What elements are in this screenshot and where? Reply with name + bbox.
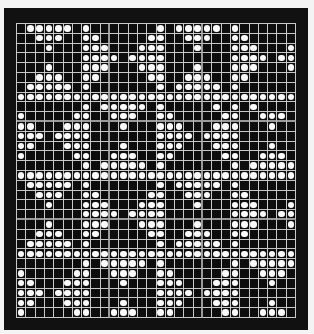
grid-cell-empty — [129, 63, 138, 73]
grid-cell-dot — [119, 161, 128, 171]
grid-cell-dot — [36, 249, 45, 259]
grid-cell-empty — [101, 289, 110, 299]
grid-cell-dot — [194, 44, 203, 54]
grid-cell-dot — [184, 230, 193, 240]
grid-cell-empty — [54, 142, 63, 152]
grid-cell-empty — [64, 151, 73, 161]
grid-cell-empty — [212, 308, 221, 318]
grid-cell-dot — [194, 83, 203, 93]
grid-cell-dot — [240, 34, 249, 44]
grid-cell-empty — [138, 298, 147, 308]
grid-cell-dot — [73, 298, 82, 308]
grid-cell-dot — [36, 34, 45, 44]
grid-cell-empty — [268, 102, 277, 112]
grid-cell-dot — [212, 93, 221, 103]
grid-cell-dot — [82, 191, 91, 201]
grid-cell-empty — [175, 308, 184, 318]
grid-cell-empty — [138, 24, 147, 34]
grid-cell-dot — [129, 161, 138, 171]
grid-cell-dot — [64, 93, 73, 103]
grid-cell-dot — [240, 220, 249, 230]
grid-cell-empty — [222, 181, 231, 191]
grid-cell-empty — [64, 161, 73, 171]
grid-cell-empty — [45, 53, 54, 63]
grid-cell-dot — [268, 279, 277, 289]
grid-cell-empty — [268, 53, 277, 63]
grid-cell-dot — [212, 142, 221, 152]
grid-cell-empty — [36, 44, 45, 54]
grid-cell-empty — [212, 220, 221, 230]
grid-cell-empty — [147, 269, 156, 279]
grid-cell-empty — [166, 53, 175, 63]
grid-cell-empty — [45, 132, 54, 142]
grid-cell-dot — [157, 112, 166, 122]
grid-cell-dot — [45, 220, 54, 230]
grid-cell-empty — [166, 230, 175, 240]
grid-cell-empty — [119, 210, 128, 220]
grid-cell-dot — [203, 93, 212, 103]
grid-cell-empty — [203, 269, 212, 279]
grid-cell-empty — [240, 122, 249, 132]
grid-cell-dot — [231, 161, 240, 171]
grid-cell-empty — [277, 200, 286, 210]
grid-cell-empty — [194, 308, 203, 318]
grid-cell-dot — [231, 308, 240, 318]
grid-cell-dot — [17, 249, 26, 259]
grid-cell-empty — [17, 191, 26, 201]
grid-cell-empty — [240, 240, 249, 250]
grid-cell-dot — [166, 142, 175, 152]
grid-cell-dot — [240, 191, 249, 201]
grid-cell-empty — [287, 269, 296, 279]
grid-cell-empty — [212, 230, 221, 240]
grid-cell-empty — [147, 112, 156, 122]
grid-cell-dot — [157, 230, 166, 240]
grid-cell-empty — [73, 259, 82, 269]
grid-cell-empty — [110, 83, 119, 93]
grid-cell-dot — [287, 200, 296, 210]
grid-cell-dot — [250, 220, 259, 230]
grid-cell-dot — [147, 34, 156, 44]
grid-cell-dot — [203, 181, 212, 191]
grid-cell-dot — [110, 53, 119, 63]
grid-cell-dot — [119, 112, 128, 122]
grid-cell-empty — [147, 161, 156, 171]
grid-cell-dot — [175, 181, 184, 191]
grid-cell-empty — [91, 24, 100, 34]
grid-cell-dot — [175, 93, 184, 103]
grid-cell-dot — [110, 259, 119, 269]
grid-cell-dot — [157, 83, 166, 93]
grid-cell-empty — [26, 230, 35, 240]
grid-cell-empty — [240, 83, 249, 93]
grid-cell-dot — [184, 83, 193, 93]
grid-cell-dot — [277, 151, 286, 161]
grid-cell-empty — [268, 220, 277, 230]
grid-cell-empty — [268, 34, 277, 44]
grid-cell-empty — [129, 142, 138, 152]
grid-cell-dot — [203, 249, 212, 259]
grid-cell-dot — [240, 63, 249, 73]
grid-cell-dot — [138, 102, 147, 112]
grid-cell-empty — [36, 200, 45, 210]
grid-cell-empty — [54, 210, 63, 220]
grid-cell-dot — [110, 102, 119, 112]
grid-cell-empty — [138, 73, 147, 83]
grid-cell-empty — [36, 161, 45, 171]
grid-cell-dot — [138, 220, 147, 230]
grid-cell-empty — [287, 122, 296, 132]
grid-cell-dot — [54, 191, 63, 201]
grid-cell-dot — [101, 249, 110, 259]
grid-cell-empty — [110, 200, 119, 210]
grid-cell-dot — [147, 220, 156, 230]
grid-cell-empty — [268, 63, 277, 73]
grid-cell-dot — [157, 44, 166, 54]
grid-cell-dot — [129, 259, 138, 269]
grid-cell-dot — [54, 249, 63, 259]
grid-cell-dot — [64, 181, 73, 191]
grid-cell-empty — [64, 230, 73, 240]
grid-cell-dot — [231, 279, 240, 289]
grid-cell-dot — [277, 93, 286, 103]
grid-cell-dot — [17, 112, 26, 122]
grid-cell-dot — [240, 171, 249, 181]
grid-cell-empty — [166, 259, 175, 269]
grid-cell-dot — [184, 249, 193, 259]
